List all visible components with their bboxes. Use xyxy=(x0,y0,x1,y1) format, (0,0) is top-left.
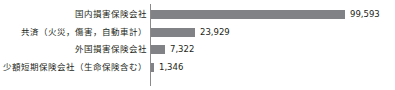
bar-value-label: 1,346 xyxy=(159,58,183,76)
category-label: 少額短期保険会社（生命保険含む） xyxy=(0,58,147,76)
chart-row: 共済（火災，傷害，自動車計） 23,929 xyxy=(0,23,395,41)
chart-row: 少額短期保険会社（生命保険含む） 1,346 xyxy=(0,58,395,76)
bar-value-label: 99,593 xyxy=(350,5,380,23)
category-label: 国内損害保険会社 xyxy=(0,5,147,23)
bar-group: 1,346 xyxy=(151,58,183,76)
bar-group: 23,929 xyxy=(151,23,230,41)
bar-group: 7,322 xyxy=(151,40,194,58)
category-label: 共済（火災，傷害，自動車計） xyxy=(0,23,147,41)
bar-segment xyxy=(151,28,195,37)
bar-segment xyxy=(151,10,345,19)
bar-segment xyxy=(151,45,165,54)
bar-group: 99,593 xyxy=(151,5,380,23)
chart-row: 外国損害保険会社 7,322 xyxy=(0,40,395,58)
category-label: 外国損害保険会社 xyxy=(0,40,147,58)
chart-row: 国内損害保険会社 99,593 xyxy=(0,5,395,23)
horizontal-bar-chart: 国内損害保険会社 99,593 共済（火災，傷害，自動車計） 23,929 外国… xyxy=(0,0,395,90)
bar-value-label: 7,322 xyxy=(170,40,194,58)
bar-segment xyxy=(151,63,154,72)
bar-value-label: 23,929 xyxy=(200,23,230,41)
